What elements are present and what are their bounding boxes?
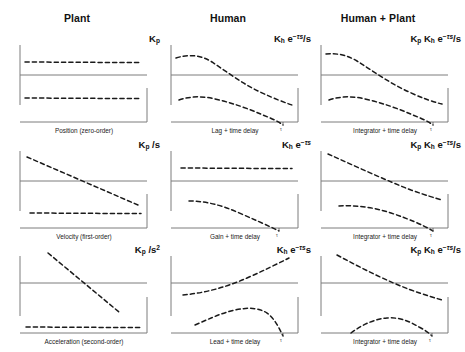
panel-plant-first-order: Kp /s Velocity (first-order) [14, 140, 164, 244]
magnitude-curve-human-plant-first-order [328, 154, 442, 200]
phase-curve-human-zero-order [179, 97, 283, 125]
panel-formula-human-zero-order: Kh e−τs/s [274, 34, 311, 45]
panel-formula-human-first-order: Kh e−τs [282, 140, 311, 151]
phase-curve-plant-zero-order [25, 98, 141, 99]
magnitude-curve-human-second-order [183, 258, 289, 295]
phase-curve-plant-second-order [26, 327, 142, 328]
column-header-human-plant: Human + Plant [341, 12, 416, 24]
svg-text:τ: τ [276, 233, 278, 238]
magnitude-curve-human-first-order [181, 168, 292, 169]
bode-axes-human-plant-zero-order: τ [315, 34, 465, 126]
bode-axes-human-first-order: τ [165, 140, 315, 232]
panel-formula-human-plant-first-order: Kp Kh e−τs/s [410, 140, 461, 151]
panel-xlabel-human-first-order: Gain + time delay [210, 234, 260, 240]
panel-plant-zero-order: Kp Position (zero-order) [14, 34, 164, 138]
panel-formula-human-second-order: Kh e−τss [277, 245, 311, 256]
phase-curve-human-first-order [189, 201, 279, 231]
panel-human-plant-zero-order: Kp Kh e−τs/s τ Integrator + time delay [315, 34, 465, 138]
svg-text:τ: τ [430, 127, 432, 132]
panel-xlabel-human-zero-order: Lag + time delay [211, 128, 258, 134]
bode-axes-human-plant-first-order: τ [315, 140, 465, 232]
panel-human-first-order: Kh e−τs τ Gain + time delay [165, 140, 315, 244]
svg-text:τ: τ [429, 338, 431, 343]
panel-formula-plant-first-order: Kp /s [139, 140, 160, 151]
bode-axes-human-plant-second-order: τ [315, 245, 465, 337]
bode-axes-human-zero-order: τ [165, 34, 315, 126]
phase-curve-plant-first-order [30, 213, 141, 214]
bode-axes-human-second-order: τ [165, 245, 315, 337]
panel-human-zero-order: Kh e−τs/s τ Lag + time delay [165, 34, 315, 138]
magnitude-curve-plant-zero-order [25, 62, 141, 63]
panel-xlabel-plant-first-order: Velocity (first-order) [56, 234, 111, 240]
column-header-plant: Plant [64, 12, 90, 24]
panel-human-plant-second-order: Kp Kh e−τs/s τ Integrator + time delay [315, 245, 465, 349]
panel-plant-second-order: Kp /s2 Acceleration (second-order) [14, 245, 164, 349]
magnitude-curve-human-plant-second-order [337, 255, 442, 300]
bode-axes-plant-zero-order [14, 34, 164, 126]
panel-xlabel-human-second-order: Lead + time delay [210, 339, 261, 345]
panel-xlabel-human-plant-second-order: Integrator + time delay [353, 339, 417, 345]
panel-xlabel-human-plant-first-order: Integrator + time delay [353, 234, 417, 240]
svg-text:τ: τ [430, 233, 432, 238]
svg-text:τ: τ [280, 338, 282, 343]
panel-xlabel-human-plant-zero-order: Integrator + time delay [353, 128, 417, 134]
panel-xlabel-plant-zero-order: Position (zero-order) [55, 128, 113, 134]
svg-text:τ: τ [280, 127, 282, 132]
column-header-human: Human [210, 12, 246, 24]
panel-xlabel-plant-second-order: Acceleration (second-order) [45, 339, 124, 345]
phase-curve-human-second-order [195, 308, 283, 336]
panel-human-second-order: Kh e−τss τ Lead + time delay [165, 245, 315, 349]
bode-axes-plant-first-order [14, 140, 164, 232]
panel-formula-human-plant-zero-order: Kp Kh e−τs/s [410, 34, 461, 45]
phase-curve-human-plant-zero-order [329, 97, 433, 125]
panel-formula-human-plant-second-order: Kp Kh e−τs/s [410, 245, 461, 256]
phase-curve-human-plant-first-order [339, 206, 433, 231]
panel-formula-plant-second-order: Kp /s2 [135, 245, 160, 256]
panel-formula-plant-zero-order: Kp [149, 34, 160, 45]
bode-axes-plant-second-order [14, 245, 164, 337]
panel-human-plant-first-order: Kp Kh e−τs/s τ Integrator + time delay [315, 140, 465, 244]
